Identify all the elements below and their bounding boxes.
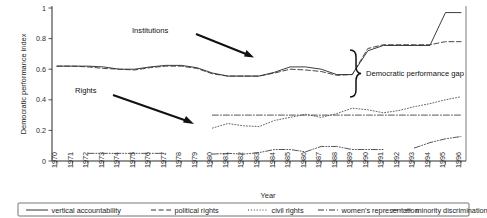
y-tick-label: 0.4 — [36, 95, 46, 104]
x-tick-label: 1977 — [159, 152, 168, 168]
x-axis-ticks: 1970197119721973197419751976197719781979… — [50, 152, 463, 168]
data-series-layer — [57, 13, 461, 155]
legend-label-political-rights: political rights — [175, 206, 220, 215]
annotation-institutions-arrow — [196, 34, 254, 58]
x-tick-label: 1995 — [438, 152, 447, 168]
x-tick-label: 1989 — [345, 152, 354, 168]
legend-items: vertical accountabilitypolitical rightsc… — [26, 206, 487, 215]
x-tick-label: 1974 — [112, 152, 121, 168]
series-line-minority-discrimination — [414, 137, 461, 148]
x-tick-label: 1972 — [81, 152, 90, 168]
legend-label-civil-rights: civil rights — [272, 206, 304, 215]
democratic-performance-chart: 00.20.40.60.81 Democratic performance in… — [0, 0, 487, 218]
x-axis-title: Year — [261, 191, 276, 200]
x-tick-label: 1993 — [407, 152, 416, 168]
annotation-gap-label: Democratic performance gap — [366, 69, 464, 78]
x-tick-label: 1996 — [454, 152, 463, 168]
x-tick-label: 1978 — [174, 152, 183, 168]
x-tick-label: 1985 — [283, 152, 292, 168]
annotation-rights-arrow — [113, 95, 194, 124]
annotation-gap-brace — [350, 50, 361, 97]
annotation-institutions-label: Institutions — [132, 26, 169, 35]
x-tick-label: 1994 — [423, 152, 432, 168]
x-tick-label: 1971 — [66, 152, 75, 168]
series-line-civil-rights — [212, 97, 461, 128]
y-tick-label: 0 — [42, 157, 46, 166]
annotation-rights-label: Rights — [75, 86, 97, 95]
y-tick-label: 1 — [42, 4, 46, 13]
x-tick-label: 1975 — [128, 152, 137, 168]
chart-figure: 00.20.40.60.81 Democratic performance in… — [0, 0, 487, 218]
y-tick-label: 0.6 — [36, 65, 46, 74]
x-tick-label: 1984 — [268, 152, 277, 168]
x-tick-label: 1983 — [252, 152, 261, 168]
y-tick-label: 0.8 — [36, 34, 46, 43]
x-tick-label: 1986 — [299, 152, 308, 168]
y-axis-title: Democratic performance index — [19, 33, 28, 134]
x-tick-label: 1992 — [392, 152, 401, 168]
x-tick-label: 1976 — [143, 152, 152, 168]
x-tick-label: 1973 — [97, 152, 106, 168]
x-tick-label: 1990 — [361, 152, 370, 168]
legend-label-vertical-accountability: vertical accountability — [52, 206, 122, 215]
x-tick-label: 1987 — [314, 152, 323, 168]
x-tick-label: 1988 — [330, 152, 339, 168]
x-tick-label: 1981 — [221, 152, 230, 168]
x-tick-label: 1970 — [50, 152, 59, 168]
y-tick-label: 0.2 — [36, 126, 46, 135]
y-axis-ticks: 00.20.40.60.81 — [36, 4, 52, 166]
x-tick-label: 1991 — [376, 152, 385, 168]
legend-label-minority-discrimination: minority discrimination — [416, 206, 487, 215]
x-tick-label: 1979 — [190, 152, 199, 168]
